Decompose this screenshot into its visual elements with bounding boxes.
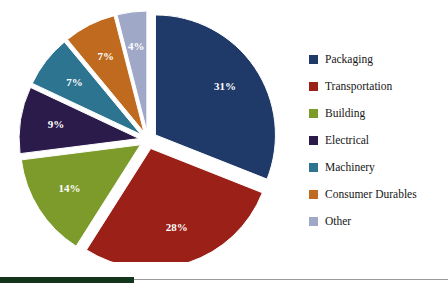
footer-rule <box>0 277 448 284</box>
chart-canvas: 31%28%14%9%7%7%4% PackagingTransportatio… <box>0 0 448 289</box>
pie-slice-group <box>19 11 275 262</box>
legend-item[interactable]: Other <box>309 208 445 235</box>
legend-item[interactable]: Electrical <box>309 127 445 154</box>
legend-item-label: Consumer Durables <box>325 189 417 201</box>
legend-swatch-icon <box>309 190 318 199</box>
legend-item-label: Building <box>325 108 365 120</box>
legend-swatch-icon <box>309 217 318 226</box>
footer-rule-accent <box>0 277 134 283</box>
legend-item[interactable]: Consumer Durables <box>309 181 445 208</box>
legend-swatch-icon <box>309 55 318 64</box>
legend-item-label: Transportation <box>325 81 392 93</box>
legend-swatch-icon <box>309 163 318 172</box>
pie-slice-label: 7% <box>66 76 83 88</box>
legend-item[interactable]: Packaging <box>309 46 445 73</box>
legend-swatch-icon <box>309 82 318 91</box>
legend-item[interactable]: Building <box>309 100 445 127</box>
legend-item-label: Packaging <box>325 54 373 66</box>
legend-item-label: Machinery <box>325 162 375 174</box>
pie-chart-svg: 31%28%14%9%7%7%4% <box>0 0 300 262</box>
chart-legend: PackagingTransportationBuildingElectrica… <box>309 46 445 235</box>
pie-chart: 31%28%14%9%7%7%4% <box>0 0 300 262</box>
pie-slice-label: 14% <box>59 182 81 194</box>
legend-swatch-icon <box>309 136 318 145</box>
legend-item-label: Electrical <box>325 135 369 147</box>
pie-slice-label: 31% <box>214 80 236 92</box>
pie-slice-label: 7% <box>98 50 115 62</box>
legend-item-label: Other <box>325 216 351 228</box>
legend-item[interactable]: Transportation <box>309 73 445 100</box>
legend-swatch-icon <box>309 109 318 118</box>
pie-slice[interactable] <box>155 15 275 179</box>
pie-slice-label: 9% <box>48 118 65 130</box>
pie-slice-label: 4% <box>128 40 145 52</box>
legend-item[interactable]: Machinery <box>309 154 445 181</box>
pie-slice-label: 28% <box>166 221 188 233</box>
